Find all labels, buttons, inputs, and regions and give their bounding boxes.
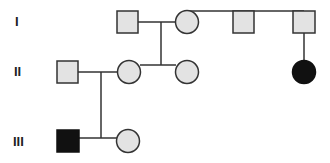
individual-i2-female (176, 11, 199, 34)
individual-ii2-female (118, 61, 141, 84)
individual-i3-male (233, 11, 254, 33)
individual-ii1-male (57, 61, 78, 83)
individual-ii3-female (176, 61, 199, 84)
individual-iii1-male-affected (57, 130, 79, 152)
individual-i1-male (117, 11, 138, 33)
individual-i4-male (293, 11, 315, 33)
individual-ii4-female-affected (293, 61, 316, 84)
pedigree-chart (0, 0, 330, 163)
individual-iii2-female (117, 130, 140, 153)
